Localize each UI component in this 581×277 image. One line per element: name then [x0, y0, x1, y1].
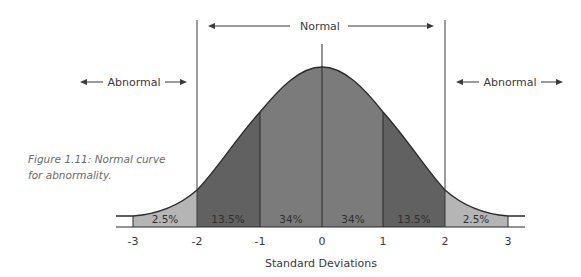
abnormal-left-arrow: Abnormal [80, 76, 187, 89]
x-tick-label: 1 [380, 235, 387, 248]
curve-fill [133, 40, 508, 227]
caption-line-1: Figure 1.11: Normal curve [28, 151, 166, 167]
caption-line-2: for abnormality. [28, 167, 166, 183]
figure-caption: Figure 1.11: Normal curve for abnormalit… [28, 151, 166, 183]
abnormal-right-arrow: Abnormal [456, 76, 563, 89]
x-tick-label: -1 [255, 235, 266, 248]
region-label: 34% [341, 213, 364, 225]
region-label: 34% [279, 213, 302, 225]
x-tick-label: 2 [442, 235, 449, 248]
arrow-right-icon [556, 79, 563, 85]
x-tick-label: -3 [128, 235, 139, 248]
arrow-right-icon [427, 23, 434, 29]
normal-label: Normal [300, 20, 340, 33]
region-tail-right [445, 40, 508, 227]
x-axis-title: Standard Deviations [265, 257, 377, 270]
normal-range-arrow: Normal [208, 20, 434, 33]
arrow-left-icon [80, 79, 87, 85]
region-label: 13.5% [397, 213, 430, 225]
normal-curve-diagram: Normal Abnormal Abnormal 2.5% 13.5% 34% … [0, 0, 581, 277]
region-band-right-outer [383, 40, 445, 227]
arrow-left-icon [456, 79, 463, 85]
abnormal-right-label: Abnormal [483, 76, 536, 89]
arrow-left-icon [208, 23, 215, 29]
region-label: 2.5% [463, 213, 490, 225]
region-label: 2.5% [152, 213, 179, 225]
abnormal-left-label: Abnormal [107, 76, 160, 89]
arrow-right-icon [180, 79, 187, 85]
region-label: 13.5% [211, 213, 244, 225]
x-tick-label: -2 [192, 235, 203, 248]
region-tail-left [133, 40, 197, 227]
x-tick-label: 3 [505, 235, 512, 248]
x-tick-label: 0 [319, 235, 326, 248]
region-band-left-outer [197, 40, 260, 227]
